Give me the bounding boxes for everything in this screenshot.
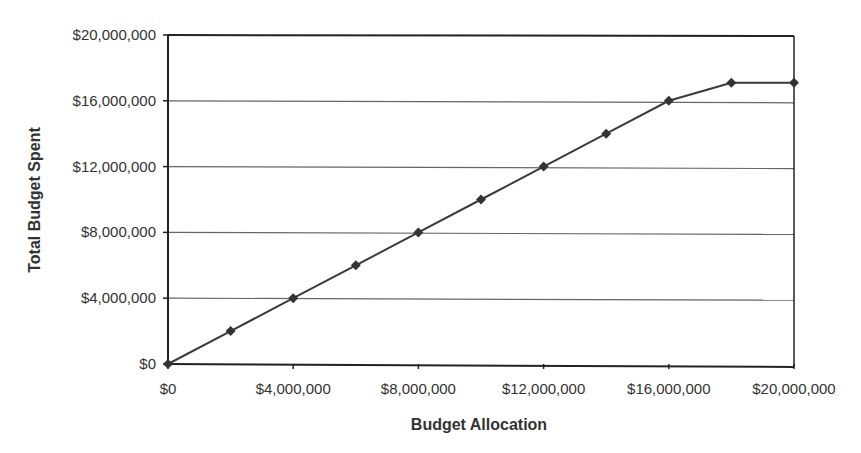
chart-canvas: $0$4,000,000$8,000,000$12,000,000$16,000… — [0, 0, 861, 453]
x-tick-label: $8,000,000 — [381, 380, 456, 397]
y-axis-title: Total Budget Spent — [26, 127, 43, 273]
series-line — [168, 83, 794, 364]
diamond-marker — [789, 78, 799, 88]
diamond-marker — [539, 162, 549, 172]
gridline — [168, 232, 794, 234]
gridline — [168, 101, 794, 103]
x-axis-title: Budget Allocation — [411, 416, 547, 433]
gridline — [168, 298, 794, 300]
y-tick-label: $0 — [139, 355, 156, 372]
y-tick-label: $16,000,000 — [73, 92, 156, 109]
x-axis-line — [168, 364, 794, 367]
x-tick-label: $4,000,000 — [256, 380, 331, 397]
diamond-marker — [288, 293, 298, 303]
x-tick-label: $16,000,000 — [627, 380, 710, 397]
y-tick-label: $8,000,000 — [81, 223, 156, 240]
y-axis-tick-labels: $0$4,000,000$8,000,000$12,000,000$16,000… — [73, 26, 156, 372]
x-tick-label: $20,000,000 — [752, 380, 835, 397]
plot-top-border — [168, 35, 794, 36]
diamond-marker — [601, 129, 611, 139]
diamond-marker — [726, 78, 736, 88]
y-tick-label: $20,000,000 — [73, 26, 156, 43]
x-axis-tick-labels: $0$4,000,000$8,000,000$12,000,000$16,000… — [160, 380, 836, 397]
diamond-marker — [351, 260, 361, 270]
diamond-marker — [413, 227, 423, 237]
diamond-marker — [163, 359, 173, 369]
diamond-marker — [226, 326, 236, 336]
x-tick-label: $12,000,000 — [502, 380, 585, 397]
budget-line-chart: $0$4,000,000$8,000,000$12,000,000$16,000… — [0, 0, 861, 453]
diamond-marker — [664, 96, 674, 106]
x-tick-label: $0 — [160, 380, 177, 397]
y-tick-label: $12,000,000 — [73, 158, 156, 175]
data-series — [163, 78, 799, 369]
diamond-marker — [476, 195, 486, 205]
gridline — [168, 167, 794, 169]
y-tick-label: $4,000,000 — [81, 289, 156, 306]
